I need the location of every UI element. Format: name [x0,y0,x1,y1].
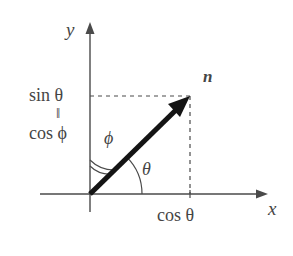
phi-angle-label: ϕ [104,129,113,147]
equals-sign-label: ‖ [56,106,60,121]
theta-angle-label: θ [142,160,151,178]
y-axis [86,22,95,212]
vector-n-label: n [203,68,212,85]
x-axis-label: x [268,199,276,218]
x-axis [40,190,268,199]
math-figure: y x sin θ ‖ cos ϕ cos θ ϕ θ n [0,0,293,256]
vector-n-shaft [90,108,178,194]
cos-theta-label: cos θ [157,206,194,224]
cos-phi-label: cos ϕ [29,124,67,142]
sin-theta-label: sin θ [29,86,63,104]
x-axis-arrowhead [256,190,268,199]
theta-arc [127,157,142,194]
y-axis-arrowhead [86,22,95,34]
y-axis-label: y [66,20,74,39]
